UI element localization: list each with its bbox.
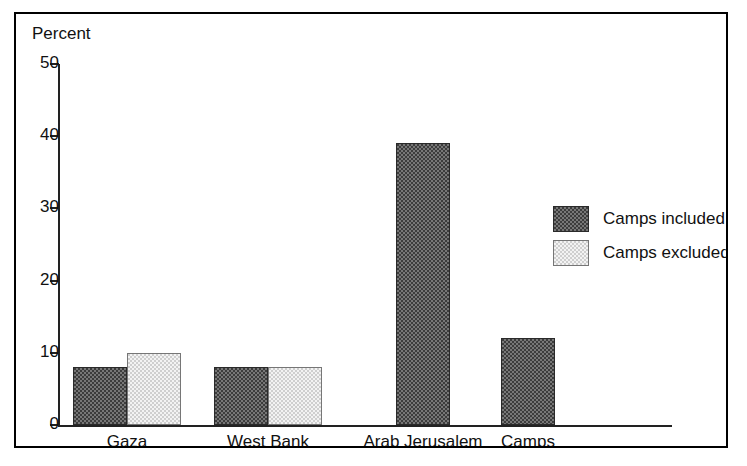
- legend-label-camps-excluded: Camps excluded: [603, 243, 728, 263]
- bar: [73, 367, 127, 425]
- x-axis-label: Arab Jerusalem: [363, 432, 482, 448]
- legend-label-camps-included: Camps included: [603, 209, 725, 229]
- bar: [127, 353, 181, 425]
- x-axis-label: Gaza: [107, 432, 148, 448]
- x-axis-line: [58, 425, 672, 427]
- bar: [396, 143, 450, 425]
- legend-item-camps-included: Camps included: [553, 202, 728, 236]
- x-axis-label: West Bank: [227, 432, 309, 448]
- legend: Camps included Camps excluded: [553, 202, 728, 270]
- legend-item-camps-excluded: Camps excluded: [553, 236, 728, 270]
- x-axis-label: Camps: [501, 432, 555, 448]
- bar: [501, 338, 555, 425]
- chart-frame: Percent 01020304050 GazaWest BankArab Je…: [14, 12, 728, 448]
- bar: [214, 367, 268, 425]
- legend-swatch-camps-included: [553, 206, 589, 232]
- legend-swatch-camps-excluded: [553, 240, 589, 266]
- bar: [268, 367, 322, 425]
